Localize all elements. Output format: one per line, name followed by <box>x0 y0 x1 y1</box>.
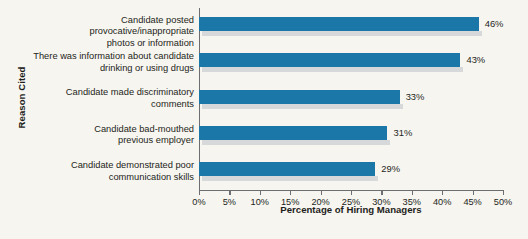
bar <box>199 53 460 67</box>
x-axis-tick <box>381 190 382 195</box>
bar-value-label: 43% <box>466 54 485 65</box>
bar <box>199 17 479 31</box>
plot-area: 0%5%10%15%20%25%30%35%40%45%50%46%43%33%… <box>199 8 503 190</box>
x-axis-title: Percentage of Hiring Managers <box>199 204 503 215</box>
bar <box>199 90 400 104</box>
category-axis-labels: Candidate posted provocative/inappropria… <box>22 8 194 190</box>
bar-group: 46% <box>199 17 503 37</box>
category-label: There was information about candidate dr… <box>22 51 194 74</box>
bar-shadow <box>202 140 390 145</box>
bar <box>199 126 387 140</box>
x-axis-tick <box>442 190 443 195</box>
category-label: Candidate made discriminatory comments <box>22 87 194 110</box>
x-axis-tick <box>321 190 322 195</box>
x-axis-tick <box>290 190 291 195</box>
x-axis-tick <box>473 190 474 195</box>
x-axis-tick <box>199 190 200 195</box>
bar <box>199 162 375 176</box>
category-label: Candidate bad-mouthed previous employer <box>22 124 194 147</box>
x-axis-tick <box>503 190 504 195</box>
bar-group: 29% <box>199 162 503 182</box>
x-axis-tick <box>412 190 413 195</box>
bar-value-label: 33% <box>406 91 425 102</box>
category-label: Candidate posted provocative/inappropria… <box>22 15 194 50</box>
bar-group: 33% <box>199 90 503 110</box>
x-axis-tick <box>229 190 230 195</box>
category-label: Candidate demonstrated poor communicatio… <box>22 160 194 183</box>
bar-shadow <box>202 67 463 72</box>
bar-group: 43% <box>199 53 503 73</box>
bar-value-label: 31% <box>393 127 412 138</box>
bar-value-label: 29% <box>381 163 400 174</box>
bar-shadow <box>202 104 403 109</box>
x-axis-tick <box>351 190 352 195</box>
bar-shadow <box>202 176 378 181</box>
bar-group: 31% <box>199 126 503 146</box>
bar-value-label: 46% <box>485 18 504 29</box>
x-axis-tick <box>260 190 261 195</box>
bar-chart: Reason Cited Candidate posted provocativ… <box>0 0 528 239</box>
bar-shadow <box>202 31 482 36</box>
